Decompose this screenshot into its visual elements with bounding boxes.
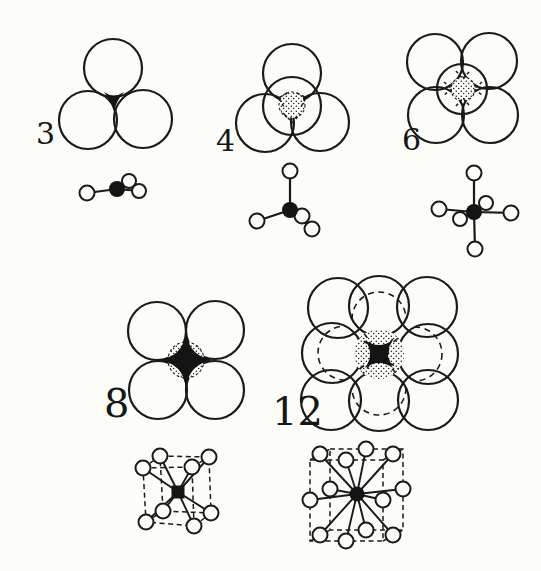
ligand-ball — [313, 447, 328, 462]
ligand-ball — [132, 184, 146, 198]
center-atom — [109, 181, 125, 197]
ligand-ball — [250, 214, 265, 229]
sphere-outline — [349, 371, 409, 431]
coordination-figure: 3 4 — [0, 0, 541, 571]
ligand-ball — [396, 482, 411, 497]
center-atom — [466, 204, 482, 220]
ligand-ball — [204, 506, 219, 521]
packing-diagram-cn8 — [128, 301, 244, 419]
interstitial-cation-stippled — [451, 77, 475, 101]
ligand-ball — [432, 202, 447, 217]
interstice-black-triangle — [104, 92, 124, 112]
coordination-number-label: 8 — [104, 380, 129, 426]
model-cn8 — [136, 449, 219, 534]
ligand-ball — [202, 450, 217, 465]
center-atom — [282, 202, 298, 218]
ligand-ball — [305, 222, 320, 237]
interstice-black-square — [157, 331, 215, 389]
sphere-outline — [114, 90, 172, 148]
sphere-outline — [308, 278, 368, 338]
sphere-outline — [59, 91, 117, 149]
model-cn6 — [432, 166, 519, 257]
sphere-outline — [398, 324, 458, 384]
ligand-ball — [468, 242, 483, 257]
ligand-ball — [156, 504, 171, 519]
sphere-outline — [84, 39, 142, 97]
ligand-ball — [323, 482, 338, 497]
ligand-ball — [359, 442, 374, 457]
ligand-ball — [185, 460, 200, 475]
ligand-ball — [153, 449, 168, 464]
packing-diagram-cn12 — [301, 276, 458, 431]
model-cn12 — [303, 442, 411, 549]
center-atom — [350, 487, 365, 502]
coordination-number-label: 12 — [272, 388, 323, 434]
ligand-ball — [339, 453, 354, 468]
center-atom-square — [172, 486, 185, 499]
ligand-ball — [313, 528, 328, 543]
coordination-number-label: 4 — [216, 123, 235, 158]
figure-svg: 3 4 — [0, 0, 541, 571]
sphere-outline — [397, 277, 457, 337]
ligand-ball — [136, 461, 151, 476]
ligand-ball — [187, 519, 202, 534]
ligand-ball-back — [453, 212, 467, 226]
ligand-ball — [376, 493, 391, 508]
packing-diagram-cn6 — [407, 33, 518, 143]
ligand-ball — [359, 523, 374, 538]
ligand-ball — [467, 166, 482, 181]
ligand-ball — [283, 164, 298, 179]
ligand-ball — [303, 493, 318, 508]
coordination-number-label: 6 — [402, 122, 421, 157]
model-cn3 — [80, 174, 147, 201]
ligand-ball — [80, 186, 95, 201]
model-cn4 — [250, 164, 320, 237]
coordination-number-label: 3 — [36, 116, 55, 151]
ligand-ball — [339, 534, 354, 549]
ligand-ball-back — [479, 196, 493, 210]
ligand-ball — [504, 206, 519, 221]
sphere-outline — [398, 370, 458, 430]
sphere-outline — [302, 323, 362, 383]
ligand-ball — [386, 528, 401, 543]
ligand-ball — [139, 515, 154, 530]
packing-diagram-cn3 — [59, 39, 172, 149]
packing-diagram-cn4 — [236, 44, 349, 152]
ligand-ball — [386, 447, 401, 462]
